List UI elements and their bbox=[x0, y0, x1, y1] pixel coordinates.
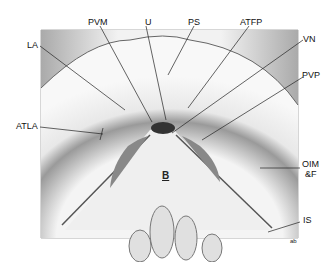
label-atla: ATLA bbox=[16, 122, 38, 131]
artist-signature: ab bbox=[290, 238, 297, 244]
label-u: U bbox=[145, 18, 152, 27]
label-pvm: PVM bbox=[88, 18, 108, 27]
pelvic-floor-figure: PVM U PS ATFP VN LA PVP ATLA OIM &F IS B… bbox=[0, 0, 335, 262]
label-pvp: PVP bbox=[302, 71, 320, 80]
label-f: &F bbox=[305, 170, 317, 179]
label-b: B bbox=[162, 170, 169, 181]
label-atfp: ATFP bbox=[240, 18, 262, 27]
label-is: IS bbox=[303, 216, 312, 225]
label-ps: PS bbox=[188, 18, 200, 27]
label-la: LA bbox=[27, 41, 38, 50]
anatomy-illustration bbox=[0, 0, 335, 262]
label-oim: OIM bbox=[302, 160, 319, 169]
label-vn: VN bbox=[303, 35, 316, 44]
